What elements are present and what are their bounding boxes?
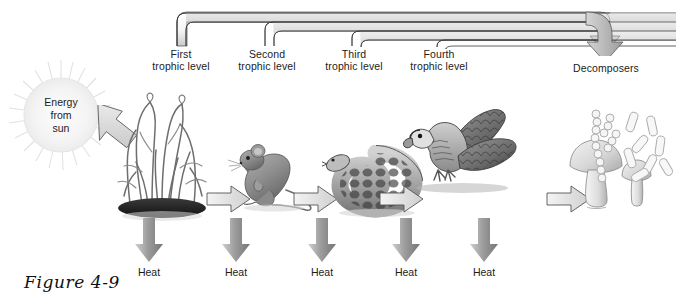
heat-arrow-5 <box>470 218 498 262</box>
heat-label-3: Heat <box>297 266 347 278</box>
hawk-icon <box>400 108 518 212</box>
band-3 <box>360 31 676 46</box>
bracket-eighth <box>446 46 676 49</box>
decomposers-label: Decomposers <box>556 62 656 74</box>
figure-caption: Figure 4-9 <box>24 272 120 292</box>
heat-label-2: Heat <box>211 266 261 278</box>
grass-tuft-icon <box>112 92 214 224</box>
heat-label-1: Heat <box>124 266 174 278</box>
heat-label-4: Heat <box>381 266 431 278</box>
figure-canvas: First trophic level Second trophic level… <box>0 0 684 302</box>
heat-arrow-1 <box>135 218 163 262</box>
heat-arrow-3 <box>308 218 336 262</box>
trophic-label-second: Second trophic level <box>232 48 302 72</box>
heat-label-5: Heat <box>459 266 509 278</box>
heat-arrow-2 <box>222 218 250 262</box>
trophic-label-third: Third trophic level <box>320 48 388 72</box>
heat-arrow-4 <box>392 218 420 262</box>
trophic-label-fourth: Fourth trophic level <box>404 48 474 72</box>
trophic-label-first: First trophic level <box>148 48 214 72</box>
mushroom-and-bacteria-icon <box>556 108 680 214</box>
